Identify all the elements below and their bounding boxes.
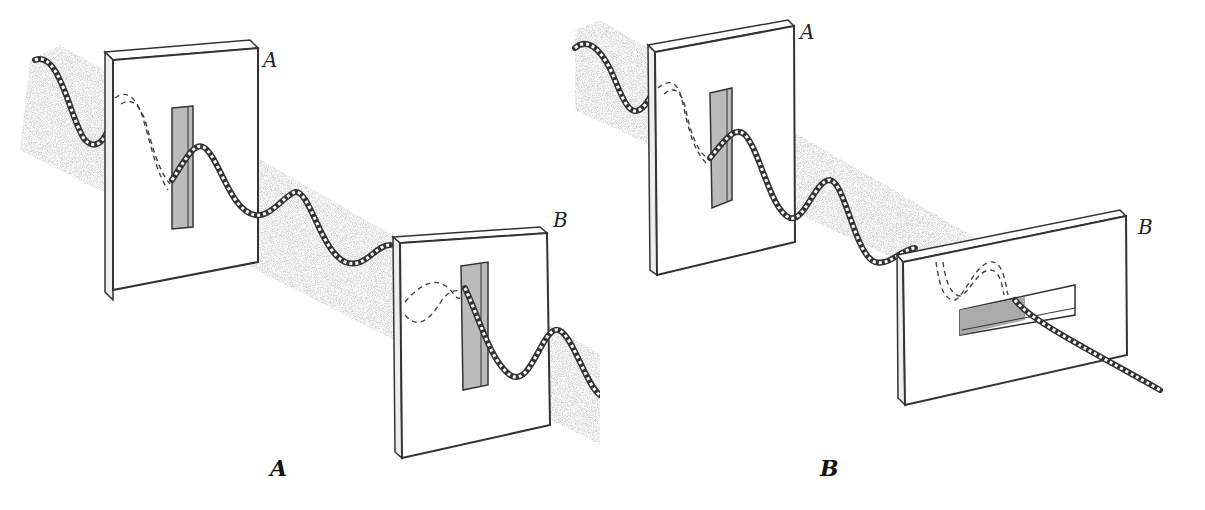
filter-a-label: A <box>800 20 814 44</box>
panel-a-caption: A <box>270 455 287 481</box>
panel-b-illustration <box>560 0 1205 510</box>
filter-b <box>393 227 550 458</box>
filter-a-label: A <box>263 48 277 72</box>
panel-a-illustration <box>0 0 600 510</box>
filter-b-label: B <box>1138 215 1153 239</box>
panel-b: A B B <box>560 0 1205 510</box>
panel-b-caption: B <box>820 455 839 481</box>
panel-a: A B A <box>0 0 600 510</box>
